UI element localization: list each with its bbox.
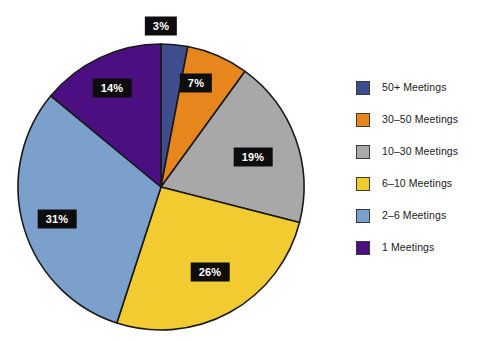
pie-slice-percent-label: 7% [180, 74, 212, 93]
legend-item-10-30-meetings[interactable]: 10–30 Meetings [356, 136, 476, 168]
pie-slice-percent-label: 26% [191, 263, 230, 282]
pie-slices-group [18, 44, 304, 330]
legend-swatch-1-meetings [356, 241, 370, 255]
legend-item-2-6-meetings[interactable]: 2–6 Meetings [356, 200, 476, 232]
pie-slice-percent-label: 19% [234, 148, 273, 167]
legend-swatch-10-30-meetings [356, 145, 370, 159]
legend-swatch-50-plus-meetings [356, 81, 370, 95]
pie-slice-percent-label: 3% [145, 17, 177, 36]
legend-swatch-6-10-meetings [356, 177, 370, 191]
legend-swatch-30-50-meetings [356, 113, 370, 127]
legend-item-1-meetings[interactable]: 1 Meetings [356, 232, 476, 264]
legend-item-6-10-meetings[interactable]: 6–10 Meetings [356, 168, 476, 200]
legend-label-6-10-meetings: 6–10 Meetings [382, 178, 452, 190]
pie-chart: 3%7%19%26%31%14% 50+ Meetings 30–50 Meet… [0, 0, 479, 341]
pie-slice-percent-label: 14% [93, 79, 132, 98]
legend-label-2-6-meetings: 2–6 Meetings [382, 210, 446, 222]
legend-label-50-plus-meetings: 50+ Meetings [382, 82, 447, 94]
legend-label-1-meetings: 1 Meetings [382, 242, 434, 254]
legend-label-30-50-meetings: 30–50 Meetings [382, 114, 458, 126]
pie-slice-percent-label: 31% [38, 210, 77, 229]
legend-swatch-2-6-meetings [356, 209, 370, 223]
legend-item-30-50-meetings[interactable]: 30–50 Meetings [356, 104, 476, 136]
legend-label-10-30-meetings: 10–30 Meetings [382, 146, 458, 158]
legend-item-50-plus-meetings[interactable]: 50+ Meetings [356, 72, 476, 104]
chart-legend: 50+ Meetings 30–50 Meetings 10–30 Meetin… [356, 72, 476, 264]
